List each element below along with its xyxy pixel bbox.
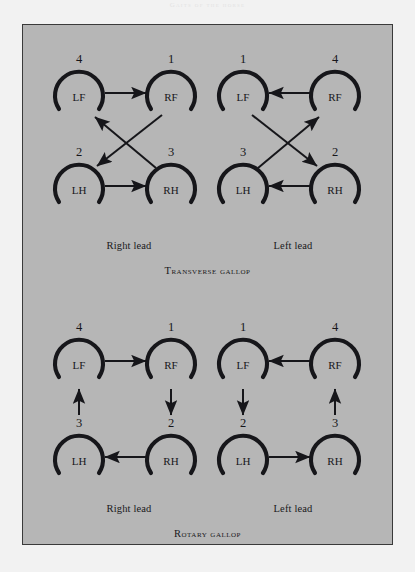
section-transverse-gallop: LF 4 RF 1 LH 2 RH — [23, 35, 392, 275]
section-rotary-gallop: LF 4 RF 1 LH 3 RH 2 — [23, 307, 392, 545]
sequence-number: 1 — [240, 52, 246, 66]
hoof-LH: LH 3 — [55, 416, 103, 473]
hoof-RF: RF 1 — [147, 52, 195, 109]
hoof-label: LH — [72, 184, 87, 196]
hoof-LH: LH 3 — [219, 145, 267, 202]
panel-transverse-right-lead: LF 4 RF 1 LH 2 RH — [55, 52, 195, 202]
hoof-label: LF — [73, 359, 86, 371]
sequence-number: 3 — [168, 145, 174, 159]
hoof-label: RH — [163, 184, 178, 196]
sequence-number: 4 — [332, 52, 339, 66]
sequence-number: 3 — [76, 416, 82, 430]
hoof-label: LH — [72, 455, 87, 467]
hoof-label: LH — [236, 184, 251, 196]
sequence-number: 3 — [332, 416, 338, 430]
hoof-LF: LF 4 — [55, 320, 103, 377]
hoof-RH: RH 2 — [147, 416, 195, 473]
hoof-LH: LH 2 — [55, 145, 103, 202]
hoof-LF: LF 1 — [219, 52, 267, 109]
hoof-RF: RF 1 — [147, 320, 195, 377]
hoof-RH: RH 3 — [147, 145, 195, 202]
arrow-RF-to-LH — [97, 115, 162, 166]
hoof-LH: LH 2 — [219, 416, 267, 473]
sequence-number: 2 — [76, 145, 82, 159]
sequence-number: 1 — [168, 52, 174, 66]
sequence-number: 2 — [332, 145, 338, 159]
hoof-label: RH — [327, 184, 342, 196]
panel-rotary-left-lead: LF 1 RF 4 LH 2 RH 3 — [219, 320, 359, 473]
arrow-LF-to-RH — [252, 115, 317, 166]
hoof-label: RH — [327, 455, 342, 467]
page-bleed-text: Gaits of the horse — [0, 1, 415, 9]
sequence-number: 2 — [240, 416, 246, 430]
hoof-label: RF — [328, 91, 341, 103]
hoof-label: LF — [73, 91, 86, 103]
lead-label-rotary-left: Left lead — [201, 503, 385, 514]
rotary-gallop-diagram: LF 4 RF 1 LH 3 RH 2 — [23, 307, 391, 497]
panel-transverse-left-lead: LF 1 RF 4 LH 3 RH 2 — [219, 52, 359, 202]
hoof-LF: LF 1 — [219, 320, 267, 377]
hoof-label: RF — [164, 359, 177, 371]
hoof-RF: RF 4 — [311, 52, 359, 109]
hoof-label: RF — [164, 91, 177, 103]
hoof-label: LF — [237, 91, 250, 103]
section-title-rotary: Rotary gallop — [23, 528, 392, 539]
hoof-RH: RH 2 — [311, 145, 359, 202]
hoof-label: LF — [237, 359, 250, 371]
sequence-number: 4 — [76, 52, 83, 66]
section-title-transverse: Transverse gallop — [23, 265, 392, 276]
hoof-LF: LF 4 — [55, 52, 103, 109]
sequence-number: 3 — [240, 145, 246, 159]
sequence-number: 4 — [332, 320, 339, 334]
sequence-number: 1 — [168, 320, 174, 334]
lead-label-transverse-right: Right lead — [37, 240, 221, 251]
hoof-label: RH — [163, 455, 178, 467]
sequence-number: 4 — [76, 320, 83, 334]
lead-label-transverse-left: Left lead — [201, 240, 385, 251]
sequence-number: 2 — [168, 416, 174, 430]
transverse-gallop-diagram: LF 4 RF 1 LH 2 RH — [23, 35, 391, 235]
hoof-label: LH — [236, 455, 251, 467]
sequence-number: 1 — [240, 320, 246, 334]
panel-rotary-right-lead: LF 4 RF 1 LH 3 RH 2 — [55, 320, 195, 473]
lead-label-rotary-right: Right lead — [37, 503, 221, 514]
hoof-RF: RF 4 — [311, 320, 359, 377]
hoof-RH: RH 3 — [311, 416, 359, 473]
hoof-label: RF — [328, 359, 341, 371]
figure-frame: LF 4 RF 1 LH 2 RH — [22, 24, 393, 545]
